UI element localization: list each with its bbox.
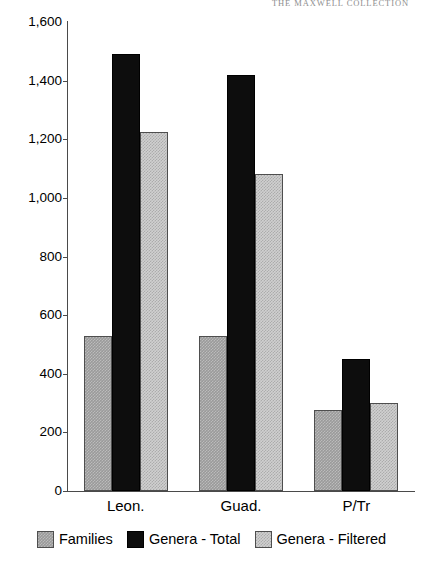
bar-genera-total-leon [112, 54, 140, 491]
y-tick-label: 0 [2, 484, 62, 498]
x-tick-label: P/Tr [299, 497, 414, 515]
y-tick-mark [63, 374, 67, 375]
y-tick-mark [63, 432, 67, 433]
x-tick-label: Guad. [183, 497, 298, 515]
bar-genera-filtered-p-tr [370, 403, 398, 491]
y-tick-mark [63, 81, 67, 82]
legend-swatch-icon [127, 531, 144, 548]
y-tick-label: 1,400 [2, 74, 62, 88]
y-tick-mark [63, 257, 67, 258]
legend-item: Families [37, 531, 113, 548]
y-tick-label: 800 [2, 250, 62, 264]
x-tick-label: Leon. [68, 497, 183, 515]
x-axis-line [67, 491, 415, 492]
bar-genera-total-guad [227, 75, 255, 491]
bar-families-p-tr [314, 410, 342, 491]
y-tick-mark [63, 315, 67, 316]
chart-legend: FamiliesGenera - TotalGenera - Filtered [0, 527, 423, 551]
y-tick-mark [63, 491, 67, 492]
bar-families-leon [84, 336, 112, 491]
y-axis-tick-labels: 02004006008001,0001,2001,4001,600 [0, 0, 62, 569]
legend-label: Genera - Filtered [277, 531, 387, 548]
y-tick-label: 1,000 [2, 191, 62, 205]
y-tick-label: 600 [2, 308, 62, 322]
bar-genera-filtered-leon [140, 132, 168, 491]
bar-genera-filtered-guad [255, 174, 283, 491]
legend-item: Genera - Filtered [255, 531, 387, 548]
y-tick-label: 200 [2, 426, 62, 440]
y-tick-label: 400 [2, 367, 62, 381]
y-tick-label: 1,200 [2, 133, 62, 147]
plot-area [68, 22, 414, 491]
bar-genera-total-p-tr [342, 359, 370, 491]
bar-families-guad [199, 336, 227, 491]
legend-swatch-icon [37, 531, 54, 548]
legend-label: Genera - Total [149, 531, 241, 548]
legend-label: Families [59, 531, 113, 548]
y-tick-mark [63, 139, 67, 140]
y-tick-mark [63, 198, 67, 199]
legend-item: Genera - Total [127, 531, 241, 548]
grouped-bar-chart: 02004006008001,0001,2001,4001,600 Famili… [0, 0, 423, 569]
legend-swatch-icon [255, 531, 272, 548]
y-tick-label: 1,600 [2, 15, 62, 29]
